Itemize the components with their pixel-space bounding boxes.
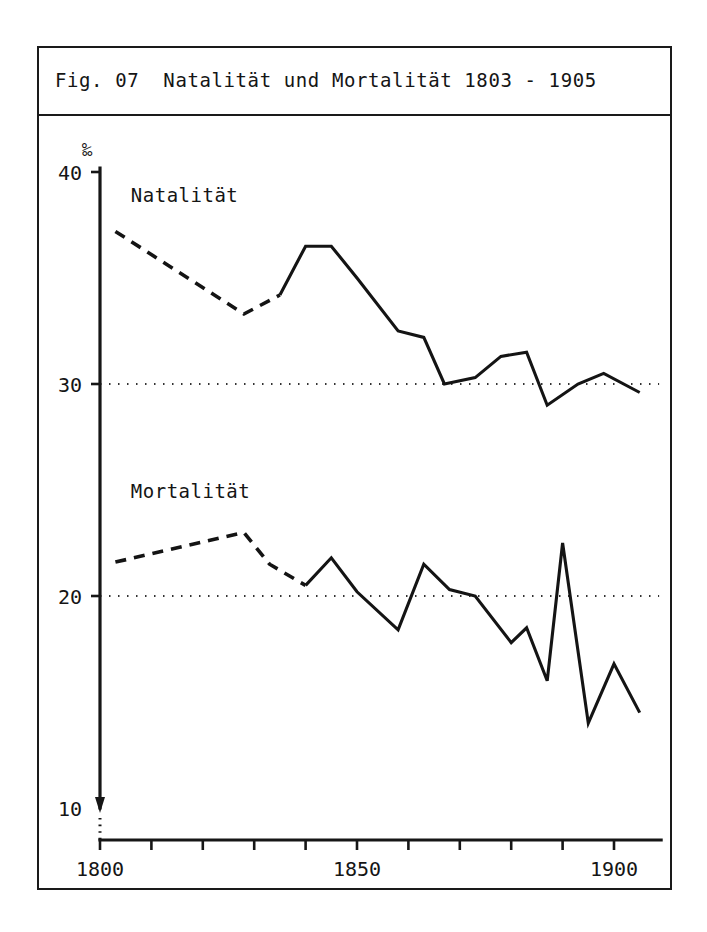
series-natalität-line	[280, 246, 640, 405]
y-axis-label-20: 20	[58, 585, 82, 609]
y-axis-label-30: 30	[58, 373, 82, 397]
x-axis-label-1900: 1900	[590, 857, 638, 881]
y-axis-unit-label: ‰	[82, 140, 93, 160]
figure-title-bar: Fig. 07 Natalität und Mortalität 1803 - …	[37, 46, 672, 116]
y-axis-label-40: 40	[58, 161, 82, 185]
line-chart: 40302010‰180018501900NatalitätMortalität	[37, 116, 672, 890]
x-axis-label-1800: 1800	[76, 857, 124, 881]
series-mortalität-line	[306, 543, 640, 723]
figure-root: Fig. 07 Natalität und Mortalität 1803 - …	[0, 0, 707, 932]
figure-title: Fig. 07 Natalität und Mortalität 1803 - …	[55, 69, 597, 91]
series-mortalität-interpolated	[115, 532, 305, 585]
x-axis-label-1850: 1850	[333, 857, 381, 881]
series-label-mortalitaet: Mortalität	[131, 480, 250, 502]
series-natalität-interpolated	[115, 231, 280, 314]
series-label-natalitaet: Natalität	[131, 184, 238, 206]
plot-area: 40302010‰180018501900NatalitätMortalität	[37, 116, 672, 890]
y-axis-arrow-icon	[95, 797, 105, 813]
y-axis-label-10: 10	[58, 797, 82, 821]
